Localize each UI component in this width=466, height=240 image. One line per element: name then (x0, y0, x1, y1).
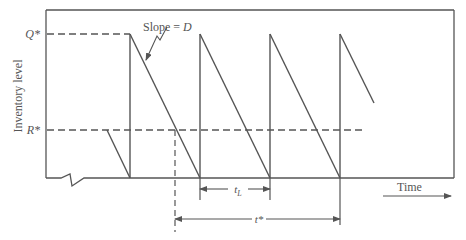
y-axis-label: Inventory level (11, 59, 25, 133)
dimension-ticks (200, 178, 340, 225)
q-star-label: Q* (25, 27, 40, 41)
depletion-3 (270, 34, 340, 178)
slope-d: D (182, 20, 192, 34)
initial-depletion (107, 130, 130, 178)
diagram-svg: Q* R* Inventory level Slope = D tL t* Ti… (0, 0, 466, 240)
r-star-label: R* (26, 123, 40, 137)
slope-label: Slope = D (143, 20, 192, 34)
plot-frame (46, 10, 454, 186)
lead-time-sub: L (236, 189, 242, 198)
lead-time-label: tL (234, 183, 242, 198)
depletion-2 (200, 34, 270, 178)
x-axis-with-break (46, 174, 454, 186)
inventory-sawtooth (107, 34, 374, 178)
eoq-inventory-diagram: Q* R* Inventory level Slope = D tL t* Ti… (0, 0, 466, 240)
cycle-time-label: t* (255, 213, 264, 225)
depletion-4-partial (340, 34, 374, 103)
slope-text: Slope = (143, 20, 183, 34)
depletion-1 (130, 34, 200, 178)
x-axis-label: Time (397, 180, 422, 194)
